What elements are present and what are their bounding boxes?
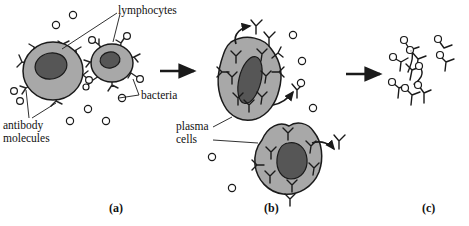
- panel-c-group: [389, 36, 455, 106]
- leader-line-plasma-cells: [213, 117, 258, 143]
- label-antibody-molecules-line2: molecules: [3, 132, 50, 144]
- label-lymphocytes: lymphocytes: [118, 4, 177, 16]
- label-plasma-cells-line2: cells: [176, 133, 197, 145]
- label-plasma-cells-line1: plasma: [176, 120, 209, 132]
- antibody-molecule: [334, 135, 345, 149]
- panel-label-c: (c): [422, 202, 435, 215]
- panel-label-a: (a): [109, 202, 123, 215]
- plasma-cell-lower-nucleus: [277, 143, 307, 179]
- figure-canvas: [0, 0, 469, 226]
- panel-label-b: (b): [264, 202, 279, 215]
- antibody-bacteria-complex: [393, 41, 454, 105]
- panel-a-group: [11, 11, 144, 124]
- label-bacteria: bacteria: [141, 89, 177, 101]
- bacterium: [389, 36, 444, 92]
- label-antibody-molecules-line1: antibody: [3, 119, 43, 131]
- panel-b-group: [208, 20, 345, 206]
- immunology-figure: lymphocytes bacteria antibody molecules …: [0, 0, 469, 226]
